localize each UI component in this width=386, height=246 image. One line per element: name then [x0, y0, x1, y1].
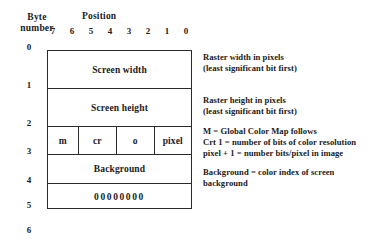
bit-label-2: 2	[142, 26, 154, 36]
flag-pixel-label: pixel	[163, 136, 183, 146]
zeros-label: 00000000	[94, 192, 145, 202]
bit-label-4: 4	[104, 26, 116, 36]
flag-cell-pixel: pixel	[155, 127, 191, 154]
screen-width-label: Screen width	[92, 65, 147, 75]
byte-number-heading-line1: Byte	[13, 12, 61, 23]
flag-cell-m: m	[48, 127, 79, 154]
byte-number-2: 2	[18, 118, 40, 128]
bit-label-1: 1	[161, 26, 173, 36]
annotation-screen-width: Raster width in pixels (least significan…	[203, 52, 385, 75]
table-row-background: Background	[48, 155, 191, 184]
annotation-screen-height: Raster height in pixels (least significa…	[203, 95, 385, 118]
position-heading: Position	[82, 11, 116, 21]
annotation-screen-height-line1: Raster height in pixels	[203, 95, 385, 106]
gif-screen-descriptor-figure: Byte number Position 7 6 5 4 3 2 1 0 0 1…	[0, 0, 386, 246]
background-label: Background	[94, 164, 145, 174]
annotation-flags-line1: M = Global Color Map follows	[203, 126, 385, 137]
bit-label-3: 3	[123, 26, 135, 36]
annotation-background-line2: background	[203, 178, 385, 189]
table-row-screen-width: Screen width	[48, 51, 191, 89]
byte-number-6: 6	[18, 225, 40, 235]
annotation-background: Background = color index of screen backg…	[203, 167, 385, 190]
byte-number-5: 5	[18, 200, 40, 210]
annotation-screen-height-line2: (least significant bit first)	[203, 106, 385, 117]
byte-number-column: 0 1 2 3 4 5 6	[18, 47, 40, 211]
flag-m-label: m	[59, 136, 67, 146]
bit-label-6: 6	[66, 26, 78, 36]
table-row-flags: m cr o pixel	[48, 127, 191, 155]
screen-height-label: Screen height	[91, 103, 148, 113]
annotation-flags: M = Global Color Map follows Crt 1 = num…	[203, 126, 385, 160]
annotation-flags-line2: Crt 1 = number of bits of color resoluti…	[203, 137, 385, 148]
flag-cr-label: cr	[93, 136, 102, 146]
byte-number-0: 0	[18, 42, 40, 52]
annotation-background-line1: Background = color index of screen	[203, 167, 385, 178]
flag-cell-o: o	[117, 127, 154, 154]
bit-label-0: 0	[180, 26, 192, 36]
byte-number-1: 1	[18, 80, 40, 90]
bit-label-5: 5	[85, 26, 97, 36]
annotation-screen-width-line1: Raster width in pixels	[203, 52, 385, 63]
byte-number-4: 4	[18, 175, 40, 185]
byte-number-3: 3	[18, 146, 40, 156]
table-row-screen-height: Screen height	[48, 89, 191, 127]
annotation-flags-line3: pixel + 1 = number bits/pixel in image	[203, 148, 385, 159]
annotation-spacer-1	[203, 83, 385, 95]
annotation-screen-width-line2: (least significant bit first)	[203, 63, 385, 74]
bit-position-row: 7 6 5 4 3 2 1 0	[47, 26, 192, 36]
bit-label-7: 7	[47, 26, 59, 36]
annotation-column: Raster width in pixels (least significan…	[203, 52, 385, 198]
table-row-zeros: 00000000	[48, 184, 191, 209]
flag-cell-cr: cr	[79, 127, 117, 154]
flag-o-label: o	[133, 136, 138, 146]
byte-structure-table: Screen width Screen height m cr o pixel …	[47, 50, 192, 209]
